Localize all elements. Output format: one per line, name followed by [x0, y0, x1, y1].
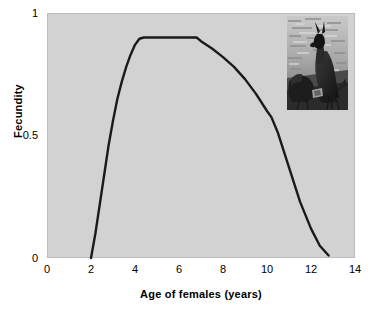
inset-photo	[287, 16, 348, 110]
kangaroo-photo-icon	[287, 16, 348, 110]
figure-container: 1 0.5 0 0 2 4 6 8 10 12 14 Fecundity Age…	[0, 0, 380, 313]
